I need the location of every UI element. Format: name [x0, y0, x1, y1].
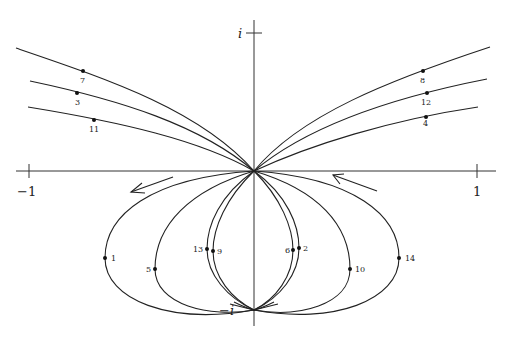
loop-9 [213, 171, 254, 310]
upper-curves-right [254, 47, 490, 171]
point-13 [205, 247, 209, 251]
label-minus-one: −1 [17, 184, 36, 199]
arrow-left-icon [131, 177, 173, 193]
point-label-12: 12 [421, 98, 431, 107]
upper-curves-left [16, 48, 254, 171]
complex-plane-diagram: −1 1 i −i [0, 0, 508, 341]
point-label-14: 14 [405, 254, 415, 263]
curve-11 [28, 107, 254, 171]
point-12 [425, 91, 429, 95]
point-14 [397, 256, 401, 260]
curve-12 [254, 79, 487, 171]
lower-loops [105, 171, 399, 314]
point-label-10: 10 [355, 265, 365, 274]
label-i: i [238, 26, 242, 41]
lower-points: 1 5 13 9 6 2 10 14 [103, 244, 415, 274]
point-label-1: 1 [111, 254, 116, 263]
point-2 [297, 246, 301, 250]
point-label-3: 3 [75, 98, 80, 107]
loop-14 [230, 171, 399, 314]
point-6 [291, 248, 295, 252]
loop-5 [155, 171, 274, 312]
point-8 [421, 69, 425, 73]
point-label-6: 6 [285, 246, 290, 255]
point-9 [211, 249, 215, 253]
loop-6 [254, 171, 293, 310]
point-label-8: 8 [420, 76, 425, 85]
point-1 [103, 256, 107, 260]
point-7 [81, 69, 85, 73]
point-3 [75, 91, 79, 95]
point-label-5: 5 [146, 265, 151, 274]
point-label-7: 7 [80, 76, 85, 85]
point-10 [348, 267, 352, 271]
label-one: 1 [473, 184, 481, 199]
point-5 [153, 267, 157, 271]
point-label-11: 11 [89, 125, 99, 134]
label-minus-i: −i [219, 303, 234, 318]
curve-7 [16, 48, 254, 171]
point-label-9: 9 [217, 247, 222, 256]
upper-points: 7 3 11 8 12 4 [75, 69, 431, 134]
point-label-13: 13 [193, 245, 203, 254]
point-label-4: 4 [423, 119, 428, 128]
point-label-2: 2 [303, 244, 308, 253]
point-11 [92, 118, 96, 122]
